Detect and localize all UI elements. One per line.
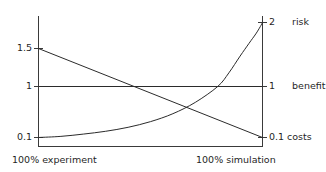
chart-plot-area <box>0 0 326 172</box>
series-label-risk: risk <box>292 16 309 27</box>
x-axis-label-left: 100% experiment <box>12 154 97 165</box>
series-label-costs: costs <box>287 131 312 142</box>
series-line-costs <box>39 49 263 138</box>
left-axis-label-0-1: 0.1 <box>4 131 32 142</box>
right-axis-label-0-1: 0.1 <box>269 131 284 142</box>
left-axis-label-1: 1 <box>4 80 32 91</box>
chart-container: 1.5 1 0.1 2 1 0.1 risk benefit costs 100… <box>0 0 326 172</box>
series-label-benefit: benefit <box>292 80 325 91</box>
series-line-risk <box>39 23 263 138</box>
right-axis-label-2: 2 <box>269 16 275 27</box>
x-axis-label-right: 100% simulation <box>196 154 276 165</box>
left-axis-label-1-5: 1.5 <box>4 42 32 53</box>
right-axis-label-1: 1 <box>269 80 275 91</box>
